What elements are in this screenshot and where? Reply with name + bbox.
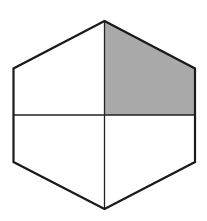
hexagon-diagram <box>0 0 207 221</box>
